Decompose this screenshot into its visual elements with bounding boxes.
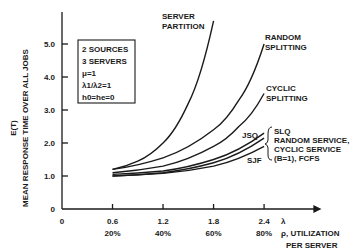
label-slq-group: CYCLIC SERVICE: [274, 145, 342, 154]
parameter-line: 3 SERVERS: [82, 57, 127, 66]
x-tick-label: 0.6: [107, 217, 119, 226]
label-server-partition: SERVER: [162, 12, 195, 21]
response-time-chart: 01.02.03.04.05.000.620%1.240%1.860%2.480…: [0, 0, 359, 252]
label-server-partition-line2: PARTITION: [162, 22, 205, 31]
x-axis-lambda-label: λ: [281, 217, 286, 226]
x-axis-label-line2: PER SERVER: [286, 241, 338, 250]
label-random-splitting-line2: SPLITTING: [265, 43, 307, 52]
parameter-line: h0=he=0: [82, 93, 115, 102]
y-tick-label: 0: [51, 205, 56, 214]
label-random-splitting: RANDOM: [265, 33, 301, 42]
y-tick-label: 1.0: [44, 172, 56, 181]
parameter-line: λ1/λ2=1: [82, 81, 112, 90]
brace-icon: [265, 127, 272, 160]
x-tick-percent: 20%: [105, 229, 121, 238]
parameter-line: μ=1: [82, 69, 97, 78]
parameter-line: 2 SOURCES: [82, 45, 129, 54]
label-slq-group: RANDOM SERVICE,: [274, 136, 349, 145]
x-tick-percent: 60%: [206, 229, 222, 238]
x-axis-label: ρ, UTILIZATION: [281, 229, 340, 238]
y-tick-label: 2.0: [44, 139, 56, 148]
curve-server-partition: [113, 21, 214, 170]
x-tick-label: 1.8: [208, 217, 220, 226]
labels: 01.02.03.04.05.000.620%1.240%1.860%2.480…: [9, 12, 349, 250]
x-tick-label: 2.4: [259, 217, 271, 226]
label-jsq: JSQ: [242, 131, 258, 140]
x-tick-label: 0: [60, 217, 65, 226]
label-slq-group: SLQ: [274, 127, 290, 136]
curve-sjf: [113, 146, 265, 176]
y-tick-label: 3.0: [44, 106, 56, 115]
label-sjf: SJF: [247, 156, 262, 165]
y-axis-label: MEAN RESPONSE TIME OVER ALL JOBS: [21, 48, 30, 206]
label-cyclic-splitting: CYCLIC: [266, 84, 296, 93]
x-tick-percent: 40%: [155, 229, 171, 238]
label-cyclic-splitting-line2: SPLITTING: [266, 94, 308, 103]
x-tick-percent: 80%: [256, 229, 272, 238]
label-slq-group: (B=1), FCFS: [274, 154, 320, 163]
x-tick-label: 1.2: [157, 217, 169, 226]
y-axis-label-top: E(T): [9, 120, 18, 136]
y-tick-label: 5.0: [44, 40, 56, 49]
axes: [62, 12, 320, 212]
y-tick-label: 4.0: [44, 73, 56, 82]
x-axis-arrow-icon: [314, 206, 320, 212]
